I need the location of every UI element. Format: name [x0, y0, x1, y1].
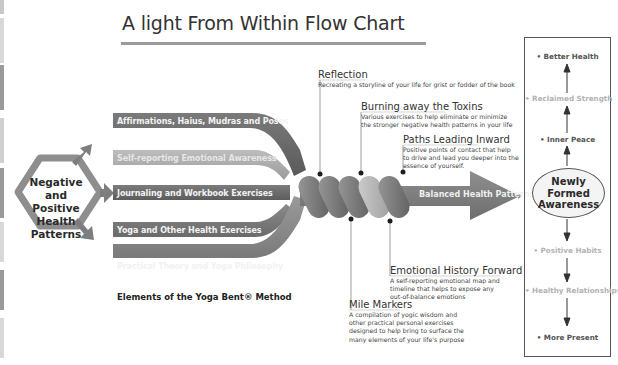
ribbon-self-reporting: Self-reporting Emotional Awareness: [117, 154, 276, 163]
elements-caption: Elements of the Yoga Bent® Method: [117, 292, 292, 302]
outcome-better-health: • Better Health: [525, 52, 610, 61]
outcome-reclaimed-strength: • Reclaimed Strength: [525, 94, 610, 103]
outcome-more-present: • More Present: [525, 333, 610, 342]
ribbon-yoga-exercises: Yoga and Other Health Exercises: [117, 226, 261, 235]
outcome-inner-peace: • Inner Peace: [525, 135, 610, 144]
annotation-burning-away-toxins: Burning away the Toxins Various exercise…: [361, 101, 513, 129]
ribbon-journaling: Journaling and Workbook Exercises: [117, 189, 273, 198]
outcome-healthy-relationships: • Healthy Relationships: [525, 286, 610, 295]
outcome-positive-habits: • Positive Habits: [525, 246, 610, 255]
annotation-emotional-history-forward: Emotional History Forward A self-reporti…: [390, 265, 522, 302]
ribbon-affirmations: Affirmations, Haius, Mudras and Poses: [117, 117, 289, 126]
annotation-reflection: Reflection Recreating a storyline of you…: [318, 69, 515, 89]
ribbon-practical-theory: Practical Theory and Yoga Philosophy: [117, 262, 283, 271]
annotation-paths-leading-inward: Paths Leading Inward Positive points of …: [403, 134, 519, 171]
newly-formed-awareness-node: Newly Formed Awareness: [532, 168, 605, 218]
balanced-health-label: Balanced Health Patterns: [419, 190, 534, 199]
annotation-mile-markers: Mile Markers A compilation of yogic wisd…: [349, 299, 464, 344]
coil-twist: [295, 172, 414, 221]
source-node-label: Negative and Positive Health Patterns: [20, 176, 92, 241]
ribbons: [113, 113, 306, 258]
